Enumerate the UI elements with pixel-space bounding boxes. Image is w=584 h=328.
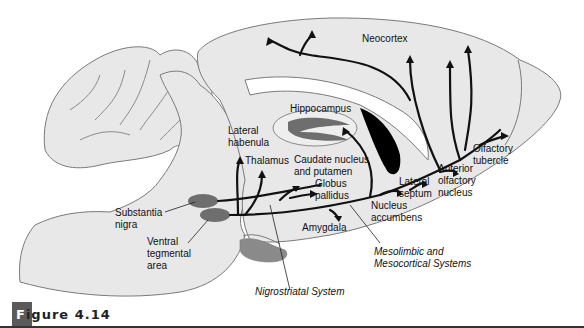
label-thalamus: Thalamus [245, 155, 289, 167]
label-caudate-putamen: Caudate nucleus and putamen [294, 154, 369, 178]
label-olfactory-tubercle: Olfactory tubercle [473, 143, 513, 167]
substantia-nigra-nucleus [188, 194, 218, 208]
caption-text: igure 4.14 [26, 307, 111, 322]
caption-first-letter: F [16, 307, 26, 322]
label-ventral-tegmental-area: Ventral tegmental area [147, 236, 191, 272]
label-lateral-habenula: Lateral habenula [228, 125, 269, 149]
label-globus-pallidus: Globus pallidus [315, 178, 349, 202]
label-mesolimbic-mesocortical: Mesolimbic and Mesocortical Systems [374, 246, 471, 270]
label-nucleus-accumbens: Nucleus accumbens [371, 200, 422, 224]
label-hippocampus: Hippocampus [290, 103, 351, 115]
label-anterior-olfactory-nucleus: Anterior olfactory nucleus [438, 163, 476, 199]
label-substantia-nigra: Substantia nigra [115, 207, 162, 231]
figure-caption: Figure 4.14 [12, 302, 111, 326]
label-nigrostriatal: Nigrostriatal System [255, 286, 344, 298]
label-lateral-septum: Lateral septum [399, 176, 432, 200]
label-amygdala: Amygdala [302, 222, 346, 234]
label-neocortex: Neocortex [362, 33, 408, 45]
caption-rule [0, 326, 584, 328]
vta-nucleus [200, 208, 230, 222]
